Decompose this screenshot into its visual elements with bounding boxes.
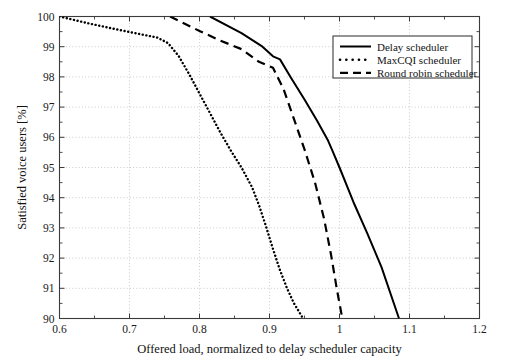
legend-entry-label: MaxCQI scheduler: [377, 54, 461, 66]
y-tick-label: 100: [37, 11, 55, 23]
y-tick-label: 91: [43, 282, 55, 294]
x-tick-label: 1.2: [472, 323, 487, 335]
y-tick-label: 99: [43, 41, 55, 53]
y-tick-label: 97: [43, 101, 55, 113]
x-axis-tick-labels: 0.60.70.80.911.11.2: [52, 323, 487, 335]
legend-entry-label: Delay scheduler: [377, 41, 448, 53]
x-tick-label: 0.8: [192, 323, 207, 335]
y-tick-label: 90: [43, 313, 55, 325]
x-axis-title: Offered load, normalized to delay schedu…: [137, 342, 402, 356]
y-tick-label: 93: [43, 222, 55, 234]
x-tick-label: 1: [337, 323, 343, 335]
y-tick-label: 94: [43, 192, 55, 204]
x-tick-label: 1.1: [402, 323, 417, 335]
y-tick-label: 92: [43, 252, 55, 264]
chart-figure: 0.60.70.80.911.11.2 90919293949596979899…: [0, 0, 509, 363]
y-tick-label: 98: [43, 71, 55, 83]
line-chart-svg: 0.60.70.80.911.11.2 90919293949596979899…: [0, 0, 509, 363]
x-tick-label: 0.9: [262, 323, 277, 335]
x-tick-label: 0.6: [52, 323, 67, 335]
legend-entry-label: Round robin scheduler: [377, 67, 478, 79]
y-axis-title: Satisfied voice users [%]: [15, 105, 29, 230]
y-tick-label: 96: [43, 131, 55, 143]
chart-legend[interactable]: Delay schedulerMaxCQI schedulerRound rob…: [333, 36, 478, 79]
x-tick-label: 0.7: [122, 323, 137, 335]
y-tick-label: 95: [43, 162, 55, 174]
y-axis-tick-labels: 90919293949596979899100: [37, 11, 55, 325]
